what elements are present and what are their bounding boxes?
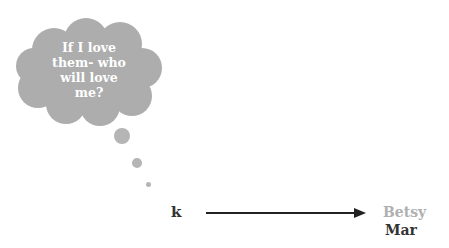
thought-line-4: me? — [14, 85, 164, 100]
target-label-mar: Mar — [385, 222, 417, 238]
source-label: k — [171, 203, 181, 221]
thought-line-3: will love — [14, 70, 164, 85]
thought-bubble-dot-small — [146, 182, 151, 187]
target-label-betsy: Betsy — [383, 204, 426, 220]
thought-line-1: If I love — [14, 40, 164, 55]
thought-text: If I love them- who will love me? — [14, 40, 164, 100]
thought-bubble-dot-large — [114, 128, 130, 144]
arrow-right-icon — [206, 207, 366, 219]
thought-bubble-dot-medium — [132, 158, 142, 168]
thought-line-2: them- who — [14, 55, 164, 70]
